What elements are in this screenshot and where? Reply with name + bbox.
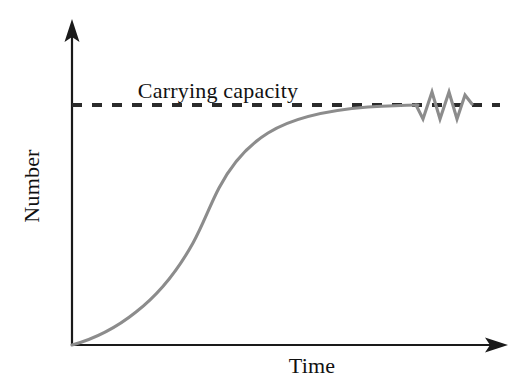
oscillation-zigzag xyxy=(416,92,472,119)
logistic-growth-figure: Carrying capacity Number Time xyxy=(0,0,529,391)
plot-canvas xyxy=(0,0,529,391)
carrying-capacity-label: Carrying capacity xyxy=(138,78,298,104)
logistic-growth-curve xyxy=(72,105,418,345)
x-axis-title: Time xyxy=(289,353,335,379)
y-axis-title: Number xyxy=(19,149,45,222)
